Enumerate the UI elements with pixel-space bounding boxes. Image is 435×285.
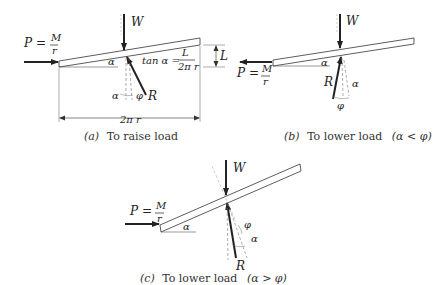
panel-a-raise-load: P = M r W α tan α = L 2π r L α φ R 2π r … (23, 14, 228, 143)
label-alpha2-b: α (352, 78, 359, 89)
label-phi-b: φ (337, 100, 344, 111)
force-R-arrow-c (227, 203, 236, 258)
panel-b-lower-load-alpha-lt-phi: P = M r W α R α φ (b) To lower load (α <… (236, 14, 432, 143)
label-R-a: R (147, 89, 157, 103)
label-P-b: P = (236, 66, 259, 80)
caption-c: (c) To lower load (α > φ) (140, 272, 287, 285)
label-alpha2-a: α (112, 90, 119, 101)
caption-a: (a) To raise load (84, 130, 178, 143)
frac-den-a: r (52, 45, 58, 56)
label-2pir: 2π r (119, 114, 142, 125)
label-R-c: R (235, 259, 245, 273)
label-alpha-c: α (183, 221, 190, 232)
label-alpha2-c: α (251, 233, 258, 244)
label-R-b: R (323, 75, 333, 89)
incline-plate-b (273, 38, 414, 66)
label-phi-c: φ (244, 219, 251, 230)
frac-den-c: r (157, 213, 163, 224)
tan-den-a: 2π r (177, 61, 200, 72)
label-lead-L: L (219, 49, 228, 63)
label-W-b: W (346, 14, 360, 28)
force-R-arrow-b (333, 57, 341, 99)
label-P-c: P = (129, 204, 152, 218)
tan-num-a: L (181, 47, 189, 58)
frac-num-b: M (261, 63, 273, 74)
caption-b: (b) To lower load (α < φ) (284, 130, 432, 143)
frac-num-c: M (155, 200, 167, 211)
panel-c-lower-load-alpha-gt-phi: P = M r W α φ α R (c) To lower load (α >… (125, 160, 301, 285)
frac-num-a: M (50, 32, 62, 43)
label-alpha-a: α (108, 56, 115, 67)
label-tan-a: tan α = (142, 55, 180, 66)
frac-den-b: r (263, 76, 269, 87)
label-alpha-b: α (321, 57, 328, 68)
screw-thread-force-diagram: P = M r W α tan α = L 2π r L α φ R 2π r … (0, 0, 435, 285)
label-W-a: W (131, 15, 145, 29)
label-phi-a: φ (136, 90, 143, 101)
label-W-c: W (233, 161, 247, 175)
label-P-a: P = (23, 36, 46, 50)
